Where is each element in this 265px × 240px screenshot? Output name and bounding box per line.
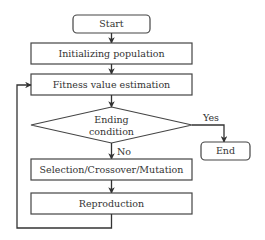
selection-crossover-mutation-label: Selection/Crossover/Mutation	[40, 164, 184, 175]
fitness-estimation-label: Fitness value estimation	[53, 79, 171, 90]
init-population-label: Initializing population	[58, 48, 164, 59]
end-label: End	[216, 145, 235, 156]
init-population-node: Initializing population	[31, 43, 192, 64]
fitness-estimation-node: Fitness value estimation	[31, 74, 192, 95]
ending-condition-label-line2: condition	[89, 126, 134, 137]
flowchart: Start Initializing population Fitness va…	[0, 0, 265, 240]
selection-crossover-mutation-node: Selection/Crossover/Mutation	[31, 159, 192, 180]
end-node: End	[201, 142, 250, 160]
yes-label: Yes	[202, 112, 219, 123]
no-label: No	[117, 146, 131, 157]
ending-condition-node: Ending condition	[31, 107, 192, 143]
start-node: Start	[73, 15, 150, 33]
reproduction-node: Reproduction	[31, 193, 192, 214]
arrow-yes-to-end	[192, 125, 224, 142]
reproduction-label: Reproduction	[79, 198, 144, 209]
ending-condition-label-line1: Ending	[94, 114, 128, 125]
start-label: Start	[99, 18, 124, 29]
